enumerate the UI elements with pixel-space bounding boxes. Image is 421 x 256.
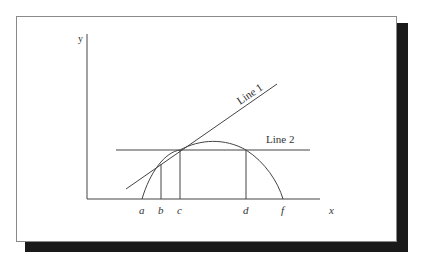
line-2-label: Line 2 bbox=[266, 133, 294, 145]
point-label-a: a bbox=[139, 204, 145, 216]
point-label-b: b bbox=[158, 204, 164, 216]
diagram-canvas: y x Line 1 Line 2 a b c d f bbox=[0, 0, 421, 256]
line-1 bbox=[126, 84, 277, 189]
point-label-f: f bbox=[281, 204, 286, 216]
point-label-d: d bbox=[243, 204, 249, 216]
point-label-c: c bbox=[177, 204, 182, 216]
y-axis-label: y bbox=[78, 33, 83, 44]
x-axis-label: x bbox=[328, 204, 334, 216]
